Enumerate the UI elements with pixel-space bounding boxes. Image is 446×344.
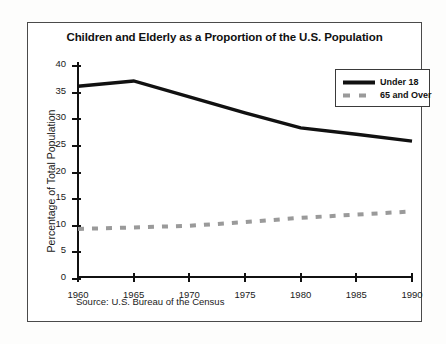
y-tick-label: 30 [55,111,66,122]
source-note: Source: U.S. Bureau of the Census [76,296,224,307]
legend-swatch-65-and-over [342,88,376,101]
x-tick-label: 1985 [346,289,367,300]
legend-swatch-under-18 [342,75,376,88]
y-tick-label: 25 [55,138,66,149]
x-tick-label: 1975 [234,289,255,300]
y-tick-label: 10 [55,218,66,229]
y-tick-label: 40 [55,58,66,69]
legend-entry-65-and-over: 65 and Over [342,88,423,101]
y-tick-label: 0 [61,271,66,282]
legend-entry-under-18: Under 18 [342,75,423,88]
legend-label-under-18: Under 18 [380,77,419,87]
chart-legend: Under 18 65 and Over [335,69,430,107]
x-tick-label: 1980 [290,289,311,300]
y-tick-label: 20 [55,165,66,176]
page-root: Children and Elderly as a Proportion of … [0,0,446,344]
chart-title: Children and Elderly as a Proportion of … [28,31,421,43]
y-tick-label: 35 [55,85,66,96]
figure-frame: Children and Elderly as a Proportion of … [27,22,422,322]
y-tick-label: 5 [61,244,66,255]
series-line-65-and-over [78,211,412,229]
legend-label-65-and-over: 65 and Over [380,90,432,100]
y-tick-label: 15 [55,191,66,202]
x-tick-label: 1990 [401,289,422,300]
